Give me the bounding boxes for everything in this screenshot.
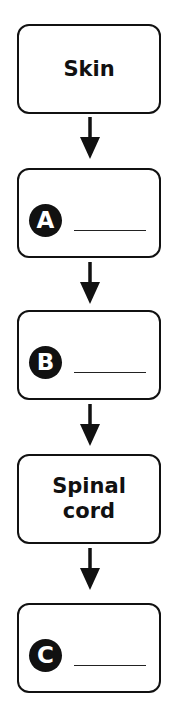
blank-line-b <box>74 372 146 373</box>
marker-b-icon: B <box>29 346 62 379</box>
node-spinal-cord: Spinal cord <box>17 454 161 544</box>
blank-line-c <box>74 665 146 666</box>
spinal-cord-line-1: Spinal <box>52 474 126 499</box>
spinal-cord-line-2: cord <box>63 499 115 524</box>
node-b: B <box>17 310 161 400</box>
arrow-down-icon <box>79 404 101 448</box>
marker-c-icon: C <box>29 639 62 672</box>
node-skin: Skin <box>17 24 161 114</box>
arrow-down-icon <box>79 117 101 161</box>
node-spinal-cord-label: Spinal cord <box>19 456 159 542</box>
blank-line-a <box>74 230 146 231</box>
arrow-down-icon <box>79 548 101 592</box>
marker-a-icon: A <box>29 204 62 237</box>
node-a: A <box>17 168 161 258</box>
node-c: C <box>17 603 161 693</box>
arrow-down-icon <box>79 262 101 306</box>
node-skin-label: Skin <box>19 26 159 112</box>
